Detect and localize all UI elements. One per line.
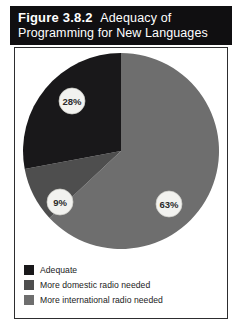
- legend-item-more-domestic-radio-needed[interactable]: More domestic radio needed: [24, 279, 220, 291]
- chart-panel: 63% 9% 28% Adequate: [14, 47, 228, 319]
- pie-slice-adequate[interactable]: [23, 53, 121, 169]
- legend-label-more-international-radio-needed: More international radio needed: [40, 295, 163, 305]
- legend-swatch-adequate: [24, 265, 34, 275]
- figure-title-part-1: Adequacy of: [100, 11, 171, 25]
- legend-swatch-more-domestic-radio-needed: [24, 280, 34, 290]
- legend-label-more-domestic-radio-needed: More domestic radio needed: [40, 280, 150, 290]
- legend-item-more-international-radio-needed[interactable]: More international radio needed: [24, 294, 220, 306]
- figure-title-banner: Figure 3.8.2 Adequacy of Programming for…: [10, 6, 232, 45]
- figure-title-line-1: Figure 3.8.2 Adequacy of: [18, 10, 224, 26]
- legend-item-adequate[interactable]: Adequate: [24, 264, 220, 276]
- pie-chart-svg: 63% 9% 28%: [21, 51, 221, 251]
- figure-number-label: Figure 3.8.2: [18, 10, 100, 25]
- pie-chart: 63% 9% 28%: [21, 51, 221, 251]
- legend-swatch-more-international-radio-needed: [24, 295, 34, 305]
- chart-legend: Adequate More domestic radio needed More…: [24, 264, 220, 309]
- figure-container: Figure 3.8.2 Adequacy of Programming for…: [0, 0, 242, 332]
- figure-title-line-2: Programming for New Languages: [18, 26, 224, 41]
- legend-label-adequate: Adequate: [40, 265, 77, 275]
